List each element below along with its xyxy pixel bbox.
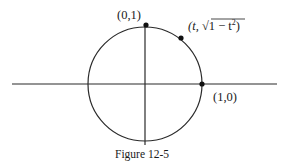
point-right [199, 81, 204, 86]
point-param [178, 35, 183, 40]
param-suffix: ) [236, 19, 240, 33]
point-top [143, 22, 148, 27]
label-top-point: (0,1) [117, 8, 141, 22]
unit-circle-diagram: (0,1) (t, √1 − t2) (1,0) Figure 12-5 [0, 0, 289, 166]
label-right-point: (1,0) [213, 90, 237, 104]
param-radicand: 1 − t [209, 19, 233, 33]
label-param-point: (t, √1 − t2) [188, 18, 240, 33]
param-prefix: (t, [188, 19, 202, 33]
figure-caption: Figure 12-5 [115, 148, 169, 161]
